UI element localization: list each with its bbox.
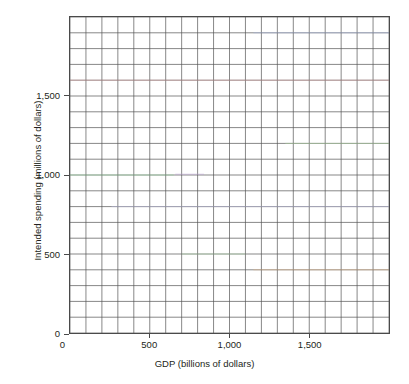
x-axis-title: GDP (billions of dollars) <box>0 358 409 369</box>
x-tick-label: 500 <box>141 340 157 350</box>
x-tick-mark <box>149 334 150 338</box>
y-tick-label: 1,000 <box>0 170 60 180</box>
data-series-layer <box>70 17 389 333</box>
x-tick-label: 0 <box>60 340 65 350</box>
y-tick-label: 500 <box>0 250 60 260</box>
y-tick-label: 0 <box>0 329 60 339</box>
x-tick-label: 1,500 <box>298 340 322 350</box>
x-tick-mark <box>229 334 230 338</box>
y-tick-label: 1,500 <box>0 91 60 101</box>
y-tick-mark <box>64 254 69 255</box>
y-axis-title: Intended spending (millions of dollars) <box>32 81 43 281</box>
chart-figure: 05001,0001,500 05001,0001,500 GDP (billi… <box>0 0 409 384</box>
y-tick-mark <box>64 334 69 335</box>
x-tick-label: 1,000 <box>218 340 242 350</box>
y-tick-mark <box>64 175 69 176</box>
plot-area <box>69 16 390 334</box>
x-tick-mark <box>309 334 310 338</box>
y-tick-mark <box>64 95 69 96</box>
